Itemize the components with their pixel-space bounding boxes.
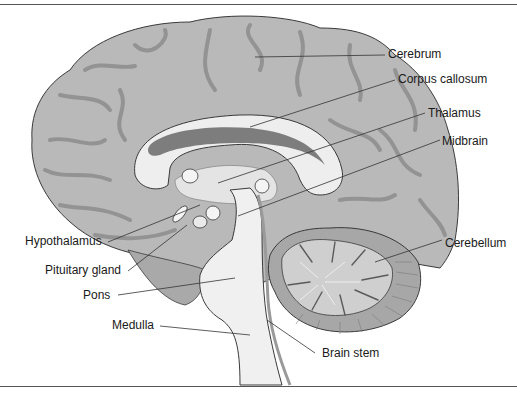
hypothalamus-shape <box>206 206 220 220</box>
label-corpus-callosum: Corpus callosum <box>398 72 487 86</box>
label-brain-stem: Brain stem <box>322 346 379 360</box>
label-thalamus: Thalamus <box>428 106 481 120</box>
label-cerebrum: Cerebrum <box>388 47 441 61</box>
pineal-node <box>255 179 269 193</box>
label-pituitary-gland: Pituitary gland <box>45 263 121 277</box>
label-hypothalamus: Hypothalamus <box>25 234 102 248</box>
label-medulla: Medulla <box>112 318 154 332</box>
cerebellum-group <box>268 228 420 334</box>
label-midbrain: Midbrain <box>442 134 488 148</box>
label-pons: Pons <box>83 288 110 302</box>
pituitary-shape <box>193 216 207 228</box>
fornix-node <box>182 169 198 183</box>
label-cerebellum: Cerebellum <box>445 236 506 250</box>
